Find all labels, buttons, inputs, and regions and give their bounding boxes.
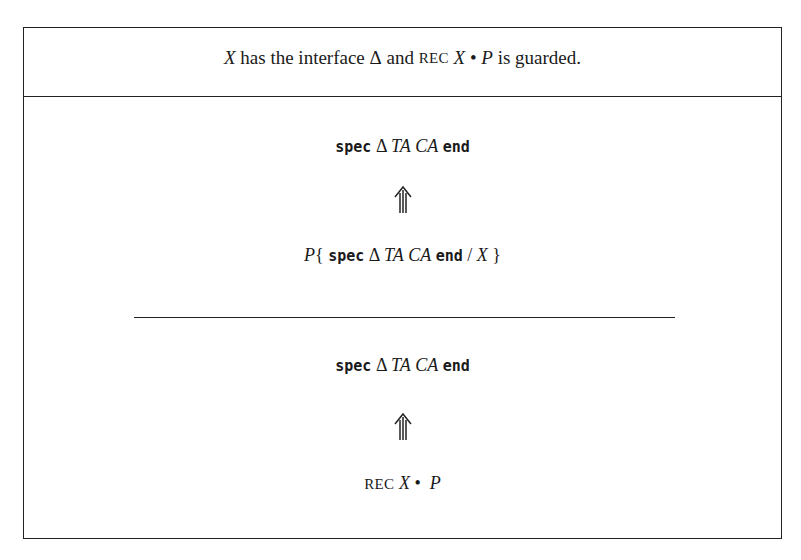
bullet-symbol: • bbox=[414, 473, 420, 493]
conclusion-rec: REC X • P bbox=[24, 473, 781, 494]
side-condition: X has the interface Δ and REC X • P is g… bbox=[24, 28, 781, 97]
inference-rule-line bbox=[134, 317, 675, 318]
conclusion-spec: spec Δ TA CA end bbox=[24, 355, 781, 376]
premise-spec: spec Δ TA CA end bbox=[24, 136, 781, 157]
proof-rule-box: X has the interface Δ and REC X • P is g… bbox=[23, 27, 782, 539]
refines-arrow-icon bbox=[392, 412, 414, 440]
bullet-symbol: • bbox=[465, 47, 481, 69]
var-x: X bbox=[224, 47, 236, 69]
delta-symbol: Δ bbox=[370, 47, 382, 69]
rec-keyword: REC bbox=[364, 476, 394, 492]
rec-keyword: REC bbox=[419, 50, 449, 67]
premise-substitution: P{ spec Δ TA CA end / X } bbox=[24, 245, 781, 266]
refines-arrow-icon bbox=[392, 185, 414, 213]
